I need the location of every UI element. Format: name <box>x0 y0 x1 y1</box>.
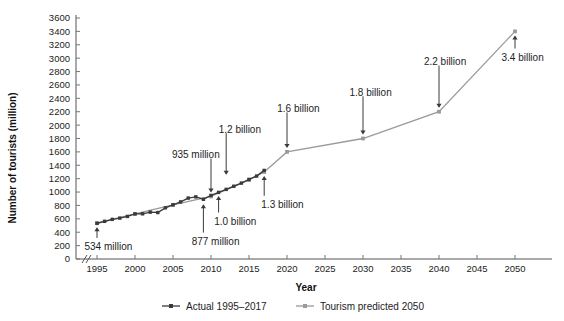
data-point-actual <box>103 220 106 223</box>
data-point-actual <box>232 185 235 188</box>
data-point-predicted <box>285 150 289 154</box>
y-tick-label: 3000 <box>49 53 70 64</box>
data-point-predicted <box>513 29 517 33</box>
annotation: 1.3 billion <box>261 176 303 210</box>
legend-item[interactable]: Actual 1995–2017 <box>162 301 267 312</box>
y-tick-label: 2200 <box>49 106 70 117</box>
x-tick-label: 2000 <box>124 263 145 274</box>
x-tick-label: 2045 <box>466 263 487 274</box>
data-point-actual <box>240 181 243 184</box>
x-tick-label: 2030 <box>352 263 373 274</box>
annotation-label: 534 million <box>84 241 132 252</box>
legend-marker-swatch <box>303 304 307 308</box>
y-tick-label: 2800 <box>49 66 70 77</box>
x-tick-label: 2035 <box>390 263 411 274</box>
data-point-predicted <box>437 110 441 114</box>
y-tick-label: 800 <box>54 200 70 211</box>
data-point-actual <box>225 188 228 191</box>
data-point-actual <box>247 178 250 181</box>
data-point-actual <box>133 212 136 215</box>
x-tick-label: 2010 <box>200 263 221 274</box>
annotation: 1.0 billion <box>214 196 256 227</box>
annotation-arrow-head <box>216 196 221 200</box>
y-tick-label: 2400 <box>49 93 70 104</box>
y-tick-label: 1200 <box>49 173 70 184</box>
y-tick-label: 200 <box>54 240 70 251</box>
annotation-label: 877 million <box>192 236 240 247</box>
data-point-actual <box>118 216 121 219</box>
annotation-label: 3.4 billion <box>501 52 543 63</box>
y-tick-label: 3400 <box>49 26 70 37</box>
annotation: 935 million <box>172 149 220 192</box>
data-point-actual <box>179 200 182 203</box>
x-tick-label: 2005 <box>162 263 183 274</box>
chart-canvas: Number of tourists (million) Year 020040… <box>0 0 564 321</box>
y-tick-label: 2000 <box>49 120 70 131</box>
y-tick-label: 0 <box>65 253 70 264</box>
legend-group: Actual 1995–2017Tourism predicted 2050 <box>162 301 424 312</box>
annotation: 2.2 billion <box>424 56 466 108</box>
data-point-actual <box>209 194 212 197</box>
y-tick-label: 2600 <box>49 79 70 90</box>
data-point-actual <box>156 211 159 214</box>
annotation-label: 1.2 billion <box>219 124 261 135</box>
annotation: 1.8 billion <box>349 87 391 135</box>
annotation-arrow-head <box>512 35 517 39</box>
annotation-label: 1.6 billion <box>277 103 319 114</box>
data-point-actual <box>164 206 167 209</box>
annotation-arrow-head <box>284 144 289 148</box>
data-point-predicted <box>361 137 365 141</box>
annotation-label: 1.0 billion <box>214 216 256 227</box>
legend-item[interactable]: Tourism predicted 2050 <box>296 301 424 312</box>
y-axis-title: Number of tourists (million) <box>7 92 18 223</box>
data-point-actual <box>171 203 174 206</box>
annotation-label: 1.8 billion <box>349 87 391 98</box>
legend-marker-swatch <box>169 304 173 308</box>
annotation: 1.6 billion <box>277 103 319 148</box>
x-tick-label: 2015 <box>238 263 259 274</box>
annotation: 1.2 billion <box>219 124 261 175</box>
annotation: 534 million <box>84 227 132 252</box>
data-point-actual <box>111 218 114 221</box>
annotation-label: 2.2 billion <box>424 56 466 67</box>
annotations-group: 534 million877 million935 million1.0 bil… <box>84 35 543 252</box>
annotation-arrow-head <box>436 104 441 108</box>
y-tick-label: 600 <box>54 213 70 224</box>
x-axis-title: Year <box>295 282 316 293</box>
x-tick-label: 2020 <box>276 263 297 274</box>
data-point-actual <box>217 191 220 194</box>
data-point-actual <box>149 210 152 213</box>
y-tick-label: 1800 <box>49 133 70 144</box>
annotation-arrow-head <box>201 204 206 208</box>
data-point-actual <box>95 222 98 225</box>
y-tick-label: 1600 <box>49 146 70 157</box>
y-tick-label: 3200 <box>49 39 70 50</box>
annotation-arrow-head <box>208 188 213 192</box>
data-point-actual <box>194 195 197 198</box>
y-tick-label: 1000 <box>49 186 70 197</box>
y-tick-label: 1400 <box>49 160 70 171</box>
annotation-label: 1.3 billion <box>261 199 303 210</box>
legend-label: Tourism predicted 2050 <box>320 301 424 312</box>
y-tick-label: 400 <box>54 227 70 238</box>
x-tick-label: 2050 <box>504 263 525 274</box>
annotation-arrow-head <box>94 227 99 231</box>
data-point-actual <box>255 174 258 177</box>
annotation-label: 935 million <box>172 149 220 160</box>
x-tick-label: 2025 <box>314 263 335 274</box>
tourism-line-chart: Number of tourists (million) Year 020040… <box>0 0 564 321</box>
x-tick-label: 2040 <box>428 263 449 274</box>
y-tick-label: 3600 <box>49 12 70 23</box>
data-point-actual <box>263 169 266 172</box>
legend-label: Actual 1995–2017 <box>186 301 267 312</box>
data-point-actual <box>202 198 205 201</box>
annotation-arrow-head <box>224 171 229 175</box>
annotation-arrow-head <box>262 176 267 180</box>
data-point-actual <box>141 212 144 215</box>
annotation-arrow-head <box>360 131 365 135</box>
data-point-actual <box>187 196 190 199</box>
axes-group: 0200400600800100012001400160018002000220… <box>49 12 552 274</box>
data-point-actual <box>126 215 129 218</box>
x-tick-label: 1995 <box>86 263 107 274</box>
